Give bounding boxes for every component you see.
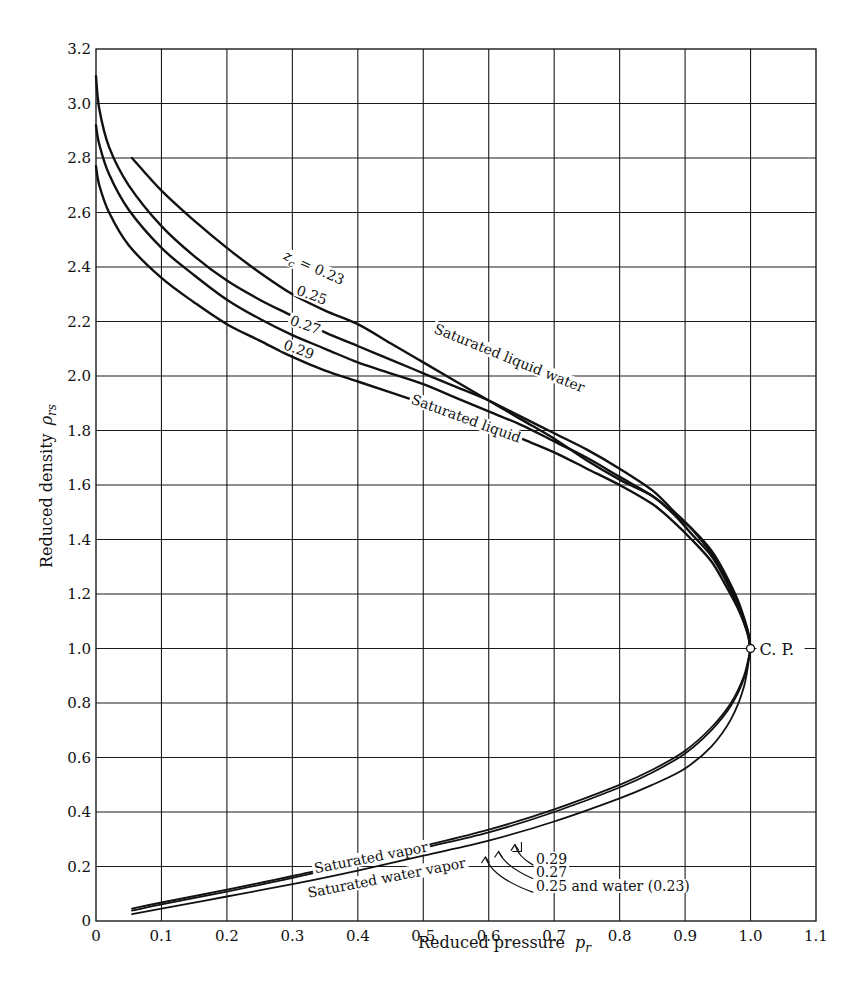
y-tick-label: 2.0	[67, 367, 91, 385]
x-axis-label: Reduced pressurepr	[418, 933, 592, 955]
svg-text:0.29: 0.29	[281, 337, 316, 363]
y-tick-label: 0.8	[67, 694, 91, 712]
x-tick-label: 0.3	[280, 927, 304, 945]
chart-canvas: 00.10.20.30.40.50.60.70.80.91.01.100.20.…	[0, 0, 860, 1004]
y-tick-label: 2.6	[67, 204, 91, 222]
y-tick-label: 0.2	[67, 858, 91, 876]
annotation: 0.25 and water (0.23)	[534, 878, 692, 894]
svg-text:zc = 0.23: zc = 0.23	[279, 247, 347, 291]
svg-text:Saturated liquid water: Saturated liquid water	[432, 320, 587, 395]
y-tick-label: 2.4	[67, 258, 91, 276]
y-tick-label: 1.4	[67, 531, 91, 549]
y-tick-label: 2.2	[67, 313, 91, 331]
annotation: Saturated liquid water	[430, 320, 589, 397]
gridlines	[96, 49, 816, 921]
svg-text:0.25 and water (0.23): 0.25 and water (0.23)	[536, 878, 690, 894]
annotations: zc = 0.230.250.270.29Saturated liquid wa…	[277, 246, 691, 901]
arrow-head-icon	[495, 852, 503, 858]
y-tick-label: 0.4	[67, 803, 91, 821]
annotation: zc = 0.23	[277, 246, 349, 292]
x-tick-label: 0	[91, 927, 101, 945]
x-tick-label: 1.1	[804, 927, 828, 945]
x-tick-label: 0.4	[346, 927, 370, 945]
critical-point-label: C. P.	[760, 640, 794, 659]
leader-line	[499, 852, 534, 879]
x-tick-label: 0.9	[673, 927, 697, 945]
arrow-head-icon	[511, 845, 519, 851]
y-tick-label: 0.6	[67, 749, 91, 767]
y-tick-label: 0	[81, 912, 91, 930]
x-tick-label: 0.2	[215, 927, 239, 945]
y-tick-label: 1.8	[67, 422, 91, 440]
y-tick-label: 1.0	[67, 640, 91, 658]
critical-point-marker	[747, 645, 755, 653]
leader-line	[485, 857, 533, 892]
axis-ticks: 00.10.20.30.40.50.60.70.80.91.01.100.20.…	[67, 40, 828, 945]
x-tick-label: 0.8	[608, 927, 632, 945]
svg-text:0.27: 0.27	[288, 312, 323, 338]
y-tick-label: 3.2	[67, 40, 91, 58]
x-tick-label: 0.1	[150, 927, 174, 945]
y-tick-label: 1.6	[67, 476, 91, 494]
y-tick-label: 2.8	[67, 149, 91, 167]
y-tick-label: 1.2	[67, 585, 91, 603]
y-tick-label: 3.0	[67, 95, 91, 113]
y-axis-label: Reduced densityρrs	[37, 404, 59, 568]
x-tick-label: 1.0	[739, 927, 763, 945]
